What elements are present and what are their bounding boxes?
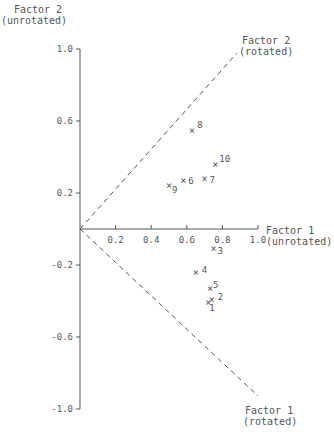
y-tick-label: 0.2 [57, 188, 73, 198]
x-tick-label: 0.4 [143, 235, 159, 245]
point-label: 3 [218, 246, 223, 256]
data-points: ×1×2×3×4×5×6×7×8×9×10 [166, 120, 230, 313]
data-point-3: ×3 [210, 243, 222, 256]
data-point-5: ×5 [207, 280, 218, 294]
axes: 1.00.60.2-0.2-0.6-1.00.20.40.60.81.0Fact… [1, 4, 332, 414]
data-point-2: ×2 [209, 292, 223, 305]
y-tick-label: -1.0 [51, 404, 73, 414]
x-tick-label: 0.6 [179, 235, 195, 245]
x-axis-subtitle: (unrotated) [266, 236, 332, 247]
factor2-rotated-axis [80, 53, 237, 229]
data-point-4: ×4 [193, 265, 207, 278]
factor1-rotated-subtitle: (rotated) [243, 416, 297, 427]
point-label: 9 [172, 185, 177, 195]
x-axis-title: Factor 1 [266, 225, 314, 236]
rotated-axes: Factor 2(rotated)Factor 1(rotated) [80, 35, 297, 427]
factor-loading-plot: 1.00.60.2-0.2-0.6-1.00.20.40.60.81.0Fact… [0, 0, 334, 439]
point-label: 8 [197, 120, 202, 130]
y-tick-label: 1.0 [57, 44, 73, 54]
cross-marker-icon: × [212, 159, 218, 170]
factor1-rotated-title: Factor 1 [245, 405, 293, 416]
point-label: 7 [210, 175, 215, 185]
point-label: 6 [188, 176, 193, 186]
data-point-7: ×7 [202, 173, 215, 185]
point-label: 4 [202, 265, 207, 275]
y-tick-label: 0.6 [57, 116, 73, 126]
factor2-rotated-subtitle: (rotated) [239, 46, 293, 57]
factor2-rotated-title: Factor 2 [242, 35, 290, 46]
cross-marker-icon: × [189, 125, 195, 136]
x-tick-label: 1.0 [250, 235, 266, 245]
cross-marker-icon: × [193, 267, 199, 278]
cross-marker-icon: × [202, 173, 208, 184]
data-point-6: ×6 [180, 175, 193, 187]
y-axis-subtitle: (unrotated) [1, 15, 67, 26]
cross-marker-icon: × [209, 294, 215, 305]
point-label: 2 [218, 292, 223, 302]
y-tick-label: -0.6 [51, 332, 73, 342]
factor1-rotated-axis [80, 229, 258, 396]
y-tick-label: -0.2 [51, 260, 73, 270]
data-point-8: ×8 [189, 120, 202, 136]
data-point-9: ×9 [166, 180, 177, 195]
cross-marker-icon: × [210, 243, 216, 254]
point-label: 5 [213, 280, 218, 290]
y-axis-title: Factor 2 [14, 4, 62, 15]
cross-marker-icon: × [180, 175, 186, 186]
point-label: 10 [219, 154, 230, 164]
x-tick-label: 0.2 [107, 235, 123, 245]
data-point-10: ×10 [212, 154, 230, 170]
x-tick-label: 0.8 [214, 235, 230, 245]
